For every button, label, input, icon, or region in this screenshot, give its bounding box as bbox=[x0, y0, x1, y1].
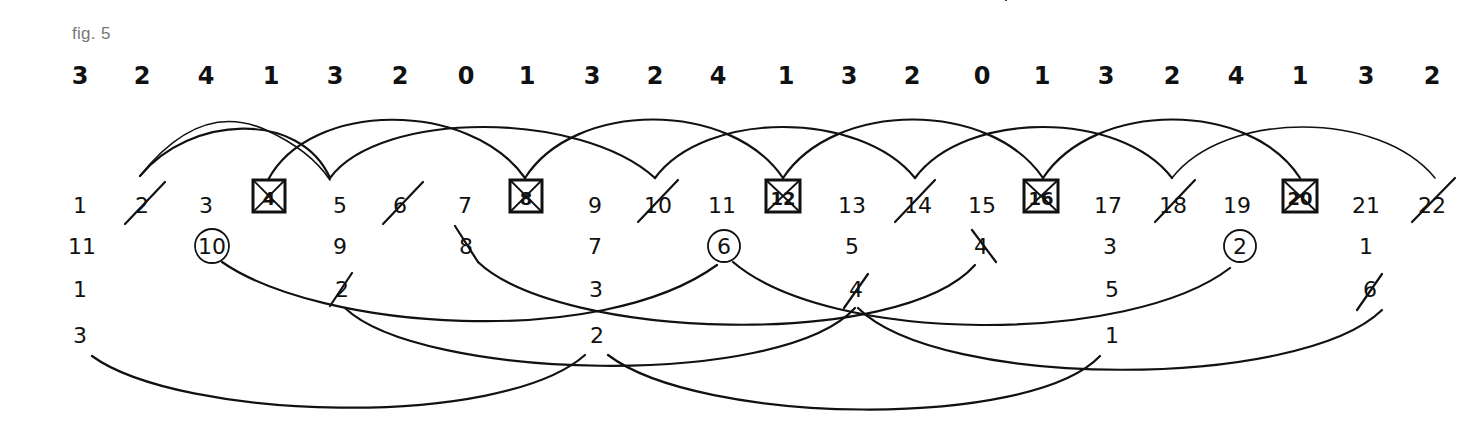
top-digit: 2 bbox=[392, 62, 409, 90]
arc-10-14 bbox=[655, 127, 915, 178]
number: 1 bbox=[73, 277, 87, 302]
number: 3 bbox=[589, 277, 603, 302]
top-digit: 1 bbox=[1292, 62, 1309, 90]
number: 2 bbox=[1233, 234, 1247, 259]
arc-2-6 bbox=[140, 129, 330, 178]
number: 13 bbox=[838, 193, 866, 218]
top-digit: 4 bbox=[198, 62, 215, 90]
number: 19 bbox=[1223, 193, 1251, 218]
number: 10 bbox=[198, 234, 226, 259]
arc-10-to-6 bbox=[222, 262, 717, 321]
number: 15 bbox=[968, 193, 996, 218]
arc-16-20 bbox=[1043, 120, 1300, 179]
number: 11 bbox=[68, 234, 96, 259]
number: 1 bbox=[73, 193, 87, 218]
top-sequence-row: 3 2 4 1 3 2 0 1 3 2 4 1 3 2 0 1 3 2 4 1 … bbox=[72, 62, 1441, 90]
arc-3-to-2 bbox=[92, 355, 585, 408]
number: 4 bbox=[263, 188, 276, 209]
top-digit: 2 bbox=[1424, 62, 1441, 90]
number: 5 bbox=[333, 193, 347, 218]
number: 11 bbox=[708, 193, 736, 218]
number: 6 bbox=[717, 234, 731, 259]
number: 12 bbox=[770, 188, 795, 209]
lower-arcs-b bbox=[92, 308, 1382, 410]
sieve-diagram: 3 2 4 1 3 2 0 1 3 2 4 1 3 2 0 1 3 2 4 1 … bbox=[0, 0, 1469, 434]
top-digit: 3 bbox=[327, 62, 344, 90]
lower-arcs-a bbox=[222, 262, 1230, 325]
arc-6-10 bbox=[330, 127, 655, 178]
arc-6-to-2 bbox=[733, 262, 1230, 325]
top-digit: 0 bbox=[974, 62, 991, 90]
top-digit: 1 bbox=[519, 62, 536, 90]
number: 7 bbox=[458, 193, 472, 218]
number: 5 bbox=[1105, 277, 1119, 302]
number: 1 bbox=[1105, 323, 1119, 348]
number: 22 bbox=[1418, 193, 1446, 218]
number: 8 bbox=[520, 188, 533, 209]
number: 20 bbox=[1287, 188, 1312, 209]
upper-arcs bbox=[140, 120, 1435, 181]
top-digit: 3 bbox=[72, 62, 89, 90]
arc-4-to-6 bbox=[858, 308, 1382, 370]
number: 3 bbox=[73, 323, 87, 348]
top-digit: 1 bbox=[778, 62, 795, 90]
top-digit: 0 bbox=[458, 62, 475, 90]
number: 7 bbox=[588, 234, 602, 259]
arc-4-8 bbox=[268, 120, 525, 180]
number: 17 bbox=[1094, 193, 1122, 218]
top-digit: 2 bbox=[1164, 62, 1181, 90]
number: 2 bbox=[590, 323, 604, 348]
number: 3 bbox=[199, 193, 213, 218]
arc-12-16 bbox=[783, 120, 1043, 179]
top-digit: 2 bbox=[134, 62, 151, 90]
number: 21 bbox=[1352, 193, 1380, 218]
number: 5 bbox=[845, 234, 859, 259]
number: 4 bbox=[974, 234, 988, 259]
number: 10 bbox=[644, 193, 672, 218]
top-digit: 3 bbox=[584, 62, 601, 90]
top-digit: 3 bbox=[1098, 62, 1115, 90]
arc-8-to-4 bbox=[478, 262, 975, 325]
top-digit: 4 bbox=[710, 62, 727, 90]
top-digit: 3 bbox=[1358, 62, 1375, 90]
number: 16 bbox=[1028, 188, 1053, 209]
top-digit: 1 bbox=[263, 62, 280, 90]
number: 9 bbox=[333, 234, 347, 259]
top-digit: 3 bbox=[841, 62, 858, 90]
number: 3 bbox=[1103, 234, 1117, 259]
top-digit: 2 bbox=[904, 62, 921, 90]
arc-8-12 bbox=[525, 120, 783, 179]
top-digit: 2 bbox=[647, 62, 664, 90]
number-row: 1 2 3 4 5 6 7 8 9 10 11 12 13 14 15 16 1… bbox=[73, 178, 1455, 224]
top-digit: 4 bbox=[1228, 62, 1245, 90]
number: 9 bbox=[588, 193, 602, 218]
top-digit: 1 bbox=[1034, 62, 1051, 90]
number: 1 bbox=[1359, 234, 1373, 259]
descending-row: 11 10 9 8 7 6 5 4 3 2 1 bbox=[68, 226, 1373, 263]
number: 8 bbox=[459, 234, 473, 259]
arc-14-18 bbox=[915, 127, 1172, 178]
arc-18-22 bbox=[1172, 127, 1435, 178]
